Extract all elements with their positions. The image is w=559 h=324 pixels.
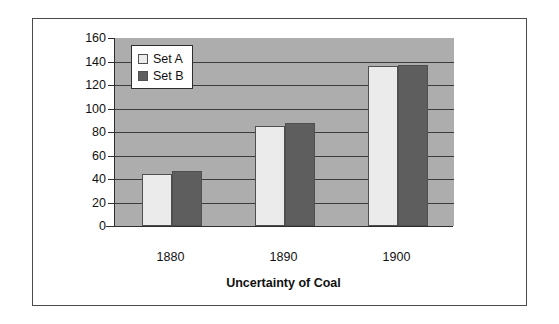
y-axis-tick-label: 20 (62, 196, 106, 210)
legend-item-set-a[interactable]: Set A (138, 50, 184, 67)
y-axis-tick-mark (108, 179, 115, 180)
y-axis-tick-labels: 020406080100120140160 (62, 30, 106, 234)
legend-item-label: Set A (153, 52, 183, 66)
bar-set-a-1900 (368, 66, 398, 226)
bar-set-a-1880 (142, 174, 172, 226)
x-axis-title: Uncertainty of Coal (114, 276, 453, 290)
bar-set-a-1890 (255, 126, 285, 226)
y-axis-tick-mark (108, 85, 115, 86)
legend-item-set-b[interactable]: Set B (138, 67, 184, 84)
x-axis-tick-label: 1880 (131, 250, 211, 264)
y-axis-tick-mark (108, 62, 115, 63)
y-axis-tick-mark (108, 156, 115, 157)
y-axis-tick-label: 140 (62, 55, 106, 69)
legend-item-label: Set B (153, 69, 184, 83)
y-axis-tick-label: 0 (62, 219, 106, 233)
y-axis-tick-mark (108, 203, 115, 204)
legend-swatch-icon (138, 71, 148, 81)
chart-figure: Millions of Short Tons 02040608010012014… (0, 0, 559, 324)
y-axis-tick-label: 80 (62, 125, 106, 139)
x-axis-tick-label: 1900 (357, 250, 437, 264)
y-axis-tick-mark (108, 132, 115, 133)
x-axis-tick-label: 1890 (244, 250, 324, 264)
bar-set-b-1900 (398, 65, 428, 226)
y-axis-tick-label: 160 (62, 31, 106, 45)
y-axis-tick-mark (108, 109, 115, 110)
x-axis-line (106, 226, 453, 227)
y-axis-tick-mark (108, 38, 115, 39)
bar-set-b-1880 (172, 171, 202, 226)
y-axis-tick-label: 120 (62, 78, 106, 92)
chart-legend[interactable]: Set ASet B (131, 45, 193, 89)
x-axis-tick-labels: 188018901900 (114, 250, 453, 268)
y-axis-tick-label: 100 (62, 102, 106, 116)
bar-set-b-1890 (285, 123, 315, 226)
y-axis-tick-label: 60 (62, 149, 106, 163)
legend-swatch-icon (138, 54, 148, 64)
y-axis-tick-label: 40 (62, 172, 106, 186)
